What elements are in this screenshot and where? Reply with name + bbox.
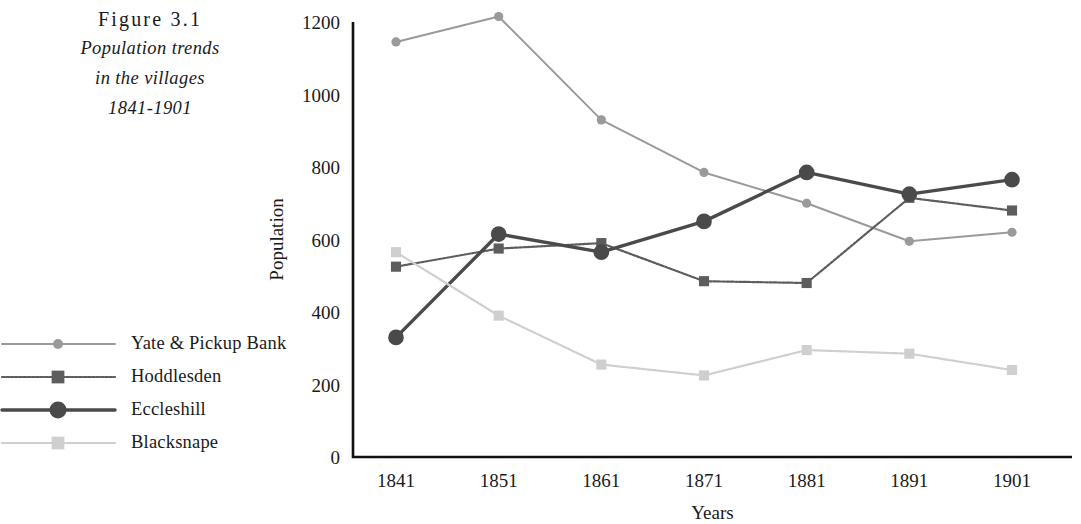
series-marker (597, 115, 606, 124)
x-tick-label: 1881 (788, 470, 826, 491)
series-marker (1004, 172, 1020, 188)
series-marker (391, 37, 400, 46)
series-marker (905, 237, 914, 246)
x-axis-tick-labels: 1841185118611871188118911901 (377, 470, 1031, 491)
axis-spine (353, 22, 1072, 457)
y-tick-label: 1200 (302, 12, 340, 33)
series-marker (802, 278, 812, 288)
x-tick-label: 1891 (890, 470, 928, 491)
series-marker (696, 214, 712, 230)
series-marker (391, 247, 401, 257)
y-tick-label: 1000 (302, 85, 340, 106)
series-marker (494, 244, 504, 254)
series-line (396, 252, 1012, 375)
x-tick-label: 1851 (480, 470, 518, 491)
x-tick-label: 1841 (377, 470, 415, 491)
line-chart-plot: 020040060080010001200 184118511861187118… (0, 0, 1081, 524)
series-marker (904, 349, 914, 359)
series-marker (594, 244, 610, 260)
y-tick-label: 800 (312, 157, 341, 178)
x-tick-label: 1901 (993, 470, 1031, 491)
series-marker (699, 370, 709, 380)
series-marker (596, 360, 606, 370)
x-tick-label: 1861 (582, 470, 620, 491)
series-marker (902, 186, 918, 202)
series-marker (699, 168, 708, 177)
series-marker (388, 330, 404, 346)
x-tick-label: 1871 (685, 470, 723, 491)
series-marker (494, 311, 504, 321)
series-line (396, 172, 1012, 337)
series-marker (1007, 205, 1017, 215)
series-lines (396, 17, 1012, 376)
series-marker (1007, 228, 1016, 237)
series-marker (802, 345, 812, 355)
y-axis-tick-labels: 020040060080010001200 (302, 12, 340, 468)
x-axis-title: Years (691, 502, 733, 523)
y-tick-label: 600 (312, 230, 341, 251)
series-marker (1007, 365, 1017, 375)
series-line (396, 17, 1012, 242)
series-marker (494, 12, 503, 21)
series-marker (391, 262, 401, 272)
series-marker (802, 199, 811, 208)
y-tick-label: 200 (312, 375, 341, 396)
y-axis-title: Population (266, 198, 287, 281)
series-marker (699, 276, 709, 286)
series-markers (388, 12, 1020, 381)
y-tick-label: 400 (312, 302, 341, 323)
figure-root: Figure 3.1 Population trends in the vill… (0, 0, 1081, 524)
y-tick-label: 0 (331, 447, 341, 468)
series-marker (491, 226, 507, 242)
axis-lines (353, 22, 1072, 457)
series-marker (799, 165, 815, 181)
